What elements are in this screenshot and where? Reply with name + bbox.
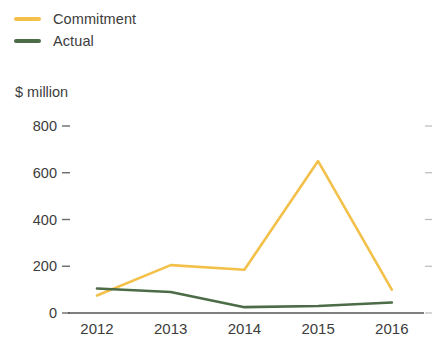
x-tick-label: 2014 [228,320,261,337]
x-tick-label: 2012 [80,320,113,337]
data-series-group [97,161,392,307]
series-line-actual [97,288,392,307]
y-axis-ticks: 0200400600800 [33,118,70,321]
y-tick-label: 0 [49,305,57,321]
right-edge-ticks [425,126,432,313]
y-tick-label: 800 [33,118,57,134]
x-tick-label: 2013 [154,320,187,337]
chart-container: Commitment Actual $ million 020040060080… [0,0,435,340]
series-line-commitment [97,161,392,295]
x-tick-label: 2016 [375,320,408,337]
y-tick-label: 200 [33,258,57,274]
y-tick-label: 600 [33,165,57,181]
y-tick-label: 400 [33,212,57,228]
x-axis-tick-labels: 20122013201420152016 [80,320,408,337]
x-tick-label: 2015 [301,320,334,337]
chart-plot-area: 0200400600800 20122013201420152016 [0,0,435,340]
